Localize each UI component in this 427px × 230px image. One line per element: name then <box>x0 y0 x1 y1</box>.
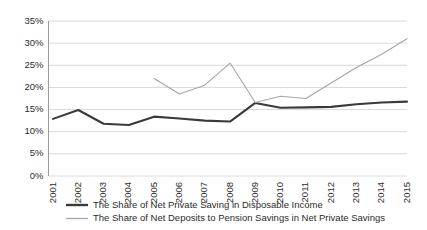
y-axis-tick-label: 10% <box>24 125 44 136</box>
y-axis-tick-label: 25% <box>24 59 44 70</box>
x-axis-tick-label: 2012 <box>325 182 336 203</box>
x-axis-tick-label: 2001 <box>47 182 58 203</box>
chart-legend: The Share of Net Private Saving in Dispo… <box>66 199 385 224</box>
gridlines <box>49 21 408 176</box>
series-lines <box>53 39 407 125</box>
y-axis-tick-label: 5% <box>30 147 44 158</box>
x-axis-tick-label: 2015 <box>401 182 412 203</box>
chart-canvas: 0%5%10%15%20%25%30%35% 20012002200320042… <box>0 0 427 230</box>
y-axis-tick-label: 35% <box>24 15 44 26</box>
legend-label: The Share of Net Private Saving in Dispo… <box>93 199 323 210</box>
y-axis-tick-label: 30% <box>24 37 44 48</box>
line-chart: 0%5%10%15%20%25%30%35% 20012002200320042… <box>0 0 427 230</box>
legend-label: The Share of Net Deposits to Pension Sav… <box>93 212 385 223</box>
y-axis-tick-label: 15% <box>24 103 44 114</box>
x-axis-tick-label: 2013 <box>350 182 361 203</box>
series-line <box>53 102 407 125</box>
x-axis-tick-label: 2014 <box>375 182 386 203</box>
y-axis-tick-label: 20% <box>24 81 44 92</box>
x-axis-tick-label: 2002 <box>72 182 83 203</box>
y-axis-tick-labels: 0%5%10%15%20%25%30%35% <box>24 15 44 181</box>
series-line <box>154 39 407 103</box>
y-axis-tick-label: 0% <box>30 170 44 181</box>
